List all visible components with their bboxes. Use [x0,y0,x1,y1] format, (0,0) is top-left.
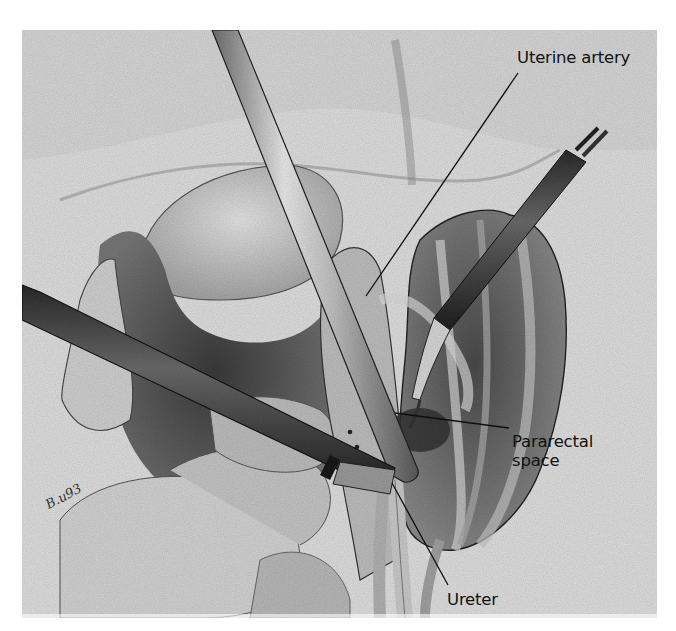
illustration-artwork [0,0,676,631]
uterine-artery-label: Uterine artery [517,48,630,67]
ureter-label: Ureter [447,590,498,609]
surgical-illustration: Uterine artery Pararectal space Ureter B… [0,0,676,631]
pararectal-space-label-line2: space [512,451,559,470]
pararectal-space-label-line1: Pararectal [512,432,593,451]
